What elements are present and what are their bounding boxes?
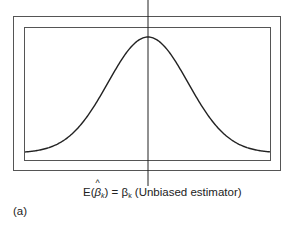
caption-prefix: E( bbox=[83, 186, 95, 198]
panel-label: (a) bbox=[13, 205, 27, 217]
hat-accent: ^ bbox=[96, 178, 100, 188]
outer-frame bbox=[14, 17, 281, 171]
subscript-k: k bbox=[101, 192, 105, 199]
beta-hat-symbol: β^k bbox=[95, 186, 105, 199]
caption-suffix: (Unbiased estimator) bbox=[132, 186, 242, 198]
x-axis-caption: E(β^k) = βk (Unbiased estimator) bbox=[83, 186, 242, 199]
caption-mid: ) = β bbox=[105, 186, 129, 198]
